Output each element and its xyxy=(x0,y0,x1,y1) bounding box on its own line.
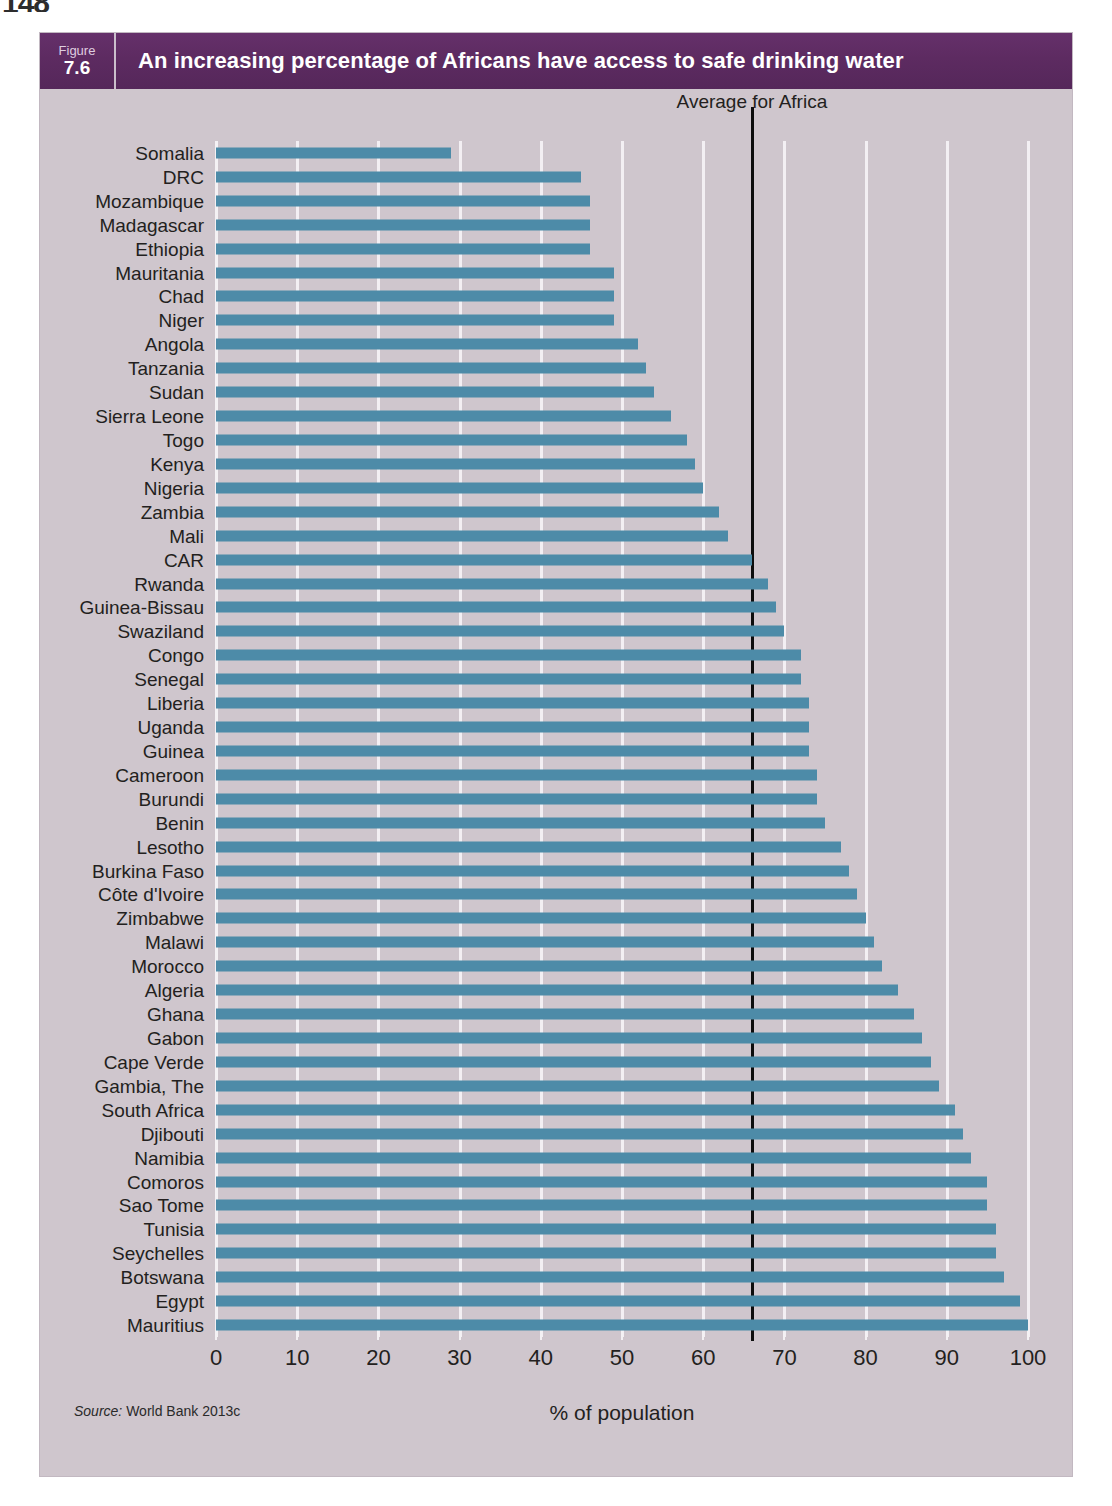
bar xyxy=(216,363,646,374)
bar xyxy=(216,195,590,206)
bar xyxy=(216,1200,987,1211)
figure-page: 148 Figure 7.6 An increasing percentage … xyxy=(0,0,1112,1506)
bar xyxy=(216,243,590,254)
bar xyxy=(216,1033,922,1044)
y-axis-label: CAR xyxy=(164,550,204,569)
y-axis-label: Lesotho xyxy=(136,837,204,856)
y-axis-label: Togo xyxy=(163,431,204,450)
bar xyxy=(216,554,752,565)
chart-area: SomaliaDRCMozambiqueMadagascarEthiopiaMa… xyxy=(40,89,1072,1476)
x-tick-label: 90 xyxy=(935,1345,959,1371)
x-tick-10 xyxy=(296,1331,298,1340)
source-prefix: Source: xyxy=(74,1403,122,1419)
y-axis-label: Namibia xyxy=(134,1148,204,1167)
bar xyxy=(216,1248,996,1259)
y-axis-label: Côte d'Ivoire xyxy=(98,885,204,904)
y-axis-label: Burkina Faso xyxy=(92,861,204,880)
y-axis-label: Chad xyxy=(159,287,204,306)
x-tick-label: 100 xyxy=(1010,1345,1047,1371)
bar xyxy=(216,506,719,517)
bar xyxy=(216,458,695,469)
bar xyxy=(216,1152,971,1163)
y-axis-label: Gabon xyxy=(147,1029,204,1048)
bar xyxy=(216,674,801,685)
y-axis-label: Kenya xyxy=(150,454,204,473)
x-tick-label: 60 xyxy=(691,1345,715,1371)
y-axis-label: DRC xyxy=(163,167,204,186)
bar xyxy=(216,817,825,828)
y-axis-labels: SomaliaDRCMozambiqueMadagascarEthiopiaMa… xyxy=(40,141,212,1337)
bar xyxy=(216,411,671,422)
y-axis-label: Mauritania xyxy=(115,263,204,282)
bar xyxy=(216,985,898,996)
y-axis-label: Burundi xyxy=(139,789,205,808)
bar xyxy=(216,1009,914,1020)
y-axis-label: Congo xyxy=(148,646,204,665)
bar xyxy=(216,913,866,924)
bar xyxy=(216,698,809,709)
figure-header-band: Figure 7.6 An increasing percentage of A… xyxy=(40,33,1072,89)
x-tick-label: 70 xyxy=(772,1345,796,1371)
bar xyxy=(216,387,654,398)
bar xyxy=(216,147,451,158)
x-tick-label: 10 xyxy=(285,1345,309,1371)
figure-label-word: Figure xyxy=(59,44,96,58)
y-axis-label: Madagascar xyxy=(99,215,204,234)
x-tick-label: 30 xyxy=(447,1345,471,1371)
x-tick-40 xyxy=(540,1331,542,1340)
gridline-100 xyxy=(1027,141,1030,1337)
bar xyxy=(216,1296,1020,1307)
plot-area: Average for Africa xyxy=(216,141,1028,1337)
y-axis-label: Djibouti xyxy=(141,1124,204,1143)
bar xyxy=(216,1320,1028,1331)
bar xyxy=(216,267,614,278)
y-axis-label: Rwanda xyxy=(134,574,204,593)
bar xyxy=(216,315,614,326)
y-axis-label: Uganda xyxy=(137,718,204,737)
x-tick-80 xyxy=(865,1331,867,1340)
y-axis-label: Sudan xyxy=(149,383,204,402)
source-note: Source: World Bank 2013c xyxy=(74,1403,240,1419)
y-axis-label: Guinea-Bissau xyxy=(79,598,204,617)
y-axis-label: Zambia xyxy=(141,502,204,521)
x-tick-label: 40 xyxy=(529,1345,553,1371)
y-axis-label: Swaziland xyxy=(117,622,204,641)
bar xyxy=(216,1176,987,1187)
x-tick-20 xyxy=(377,1331,379,1340)
y-axis-label: Somalia xyxy=(135,143,204,162)
bar xyxy=(216,1224,996,1235)
bar xyxy=(216,435,687,446)
bar xyxy=(216,171,581,182)
bar xyxy=(216,937,874,948)
y-axis-label: Liberia xyxy=(147,694,204,713)
bar xyxy=(216,1272,1004,1283)
y-axis-label: Algeria xyxy=(145,981,204,1000)
bar xyxy=(216,1080,939,1091)
bar xyxy=(216,339,638,350)
y-axis-label: Ethiopia xyxy=(135,239,204,258)
bar xyxy=(216,745,809,756)
bar xyxy=(216,626,784,637)
x-tick-label: 50 xyxy=(610,1345,634,1371)
y-axis-label: Cameroon xyxy=(115,765,204,784)
bar xyxy=(216,291,614,302)
y-axis-label: Egypt xyxy=(155,1292,204,1311)
bar xyxy=(216,865,849,876)
y-axis-label: Tanzania xyxy=(128,359,204,378)
x-tick-60 xyxy=(702,1331,704,1340)
y-axis-label: Ghana xyxy=(147,1005,204,1024)
bar xyxy=(216,578,768,589)
y-axis-label: Mali xyxy=(169,526,204,545)
x-tick-0 xyxy=(215,1331,217,1340)
x-tick-50 xyxy=(621,1331,623,1340)
y-axis-label: Senegal xyxy=(134,670,204,689)
bar xyxy=(216,650,801,661)
bar xyxy=(216,793,817,804)
bar xyxy=(216,530,728,541)
y-axis-label: South Africa xyxy=(102,1100,204,1119)
bar xyxy=(216,841,841,852)
bar xyxy=(216,769,817,780)
x-tick-label: 0 xyxy=(210,1345,222,1371)
y-axis-label: Botswana xyxy=(121,1268,204,1287)
y-axis-label: Angola xyxy=(145,335,204,354)
